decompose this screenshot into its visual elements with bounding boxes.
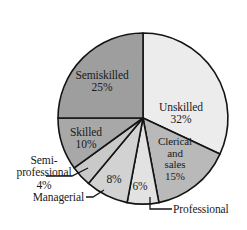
callout-label-semi-professional: Semi- professional 4%	[2, 154, 86, 191]
slice-value-managerial: 8%	[101, 173, 127, 185]
slice-label-clerical-and-sales: Clerical and sales 15%	[152, 136, 198, 183]
pie-chart-figure: Unskilled 32% Semiskilled 25% Clerical a…	[0, 0, 247, 230]
callout-label-managerial: Managerial	[4, 191, 84, 203]
slice-label-skilled: Skilled 10%	[58, 126, 114, 151]
callout-label-professional: Professional	[173, 203, 245, 215]
slice-label-unskilled: Unskilled 32%	[150, 101, 212, 126]
slice-value-professional: 6%	[128, 180, 152, 192]
slice-label-semiskilled: Semiskilled 25%	[62, 69, 142, 94]
